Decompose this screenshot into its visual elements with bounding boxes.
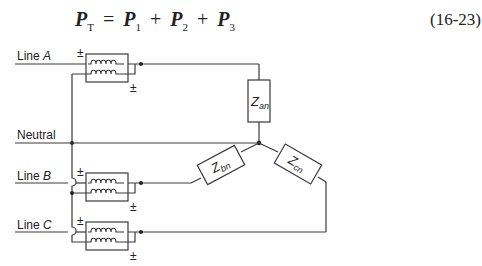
junction-dot: [139, 62, 143, 66]
wattmeter-c: ± ±: [15, 214, 326, 263]
three-wattmeter-circuit: Line A Neutral Line B Line C ± ± ± ±: [0, 0, 482, 266]
impedance-zan: Zan: [248, 64, 270, 143]
svg-text:±: ±: [130, 200, 137, 214]
return-wire: [72, 74, 76, 188]
junction-dot: [139, 181, 143, 185]
impedance-zcn: Zcn: [259, 143, 326, 232]
return-wire-c: [72, 188, 76, 235]
svg-text:±: ±: [77, 46, 84, 60]
wattmeter-a: ± ±: [15, 46, 259, 95]
svg-text:±: ±: [77, 214, 84, 228]
svg-text:±: ±: [77, 165, 84, 179]
svg-text:±: ±: [130, 81, 137, 95]
junction-dot: [70, 191, 74, 195]
svg-text:Zan: Zan: [250, 94, 269, 111]
line-b-label: Line B: [17, 169, 51, 183]
neutral-label: Neutral: [17, 128, 56, 142]
line-c-label: Line C: [17, 218, 52, 232]
line-a-label: Line A: [17, 49, 51, 63]
svg-text:±: ±: [130, 249, 137, 263]
junction-dot: [139, 230, 143, 234]
impedance-zbn: Zbn: [191, 143, 259, 185]
